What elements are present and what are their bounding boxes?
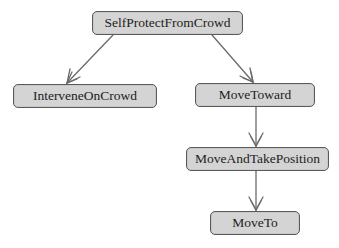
edge-moveandtakeposition-to-moveto [249,171,263,210]
node-moveandtakeposition: MoveAndTakePosition [186,147,329,171]
edge-selfprotect-to-movetoward [212,35,253,82]
edge-movetoward-to-moveandtakeposition [249,107,263,146]
edge-selfprotect-to-intervene [67,35,113,83]
node-selfprotectfromcrowd: SelfProtectFromCrowd [92,11,243,35]
node-interveneoncrowd: InterveneOnCrowd [13,84,157,108]
node-movetoward: MoveToward [195,83,315,107]
tree-diagram: SelfProtectFromCrowd InterveneOnCrowd Mo… [0,0,339,248]
node-moveto: MoveTo [210,211,300,235]
